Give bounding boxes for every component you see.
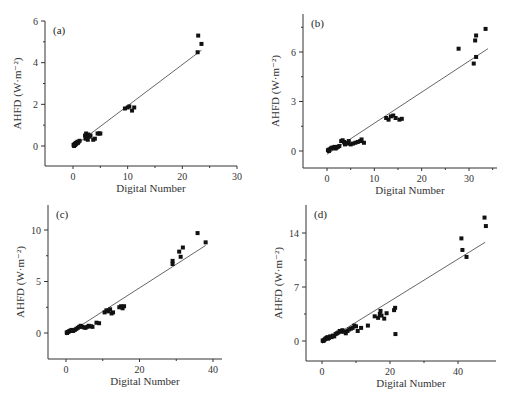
panel-label: (c)	[56, 208, 69, 221]
data-point	[204, 240, 208, 244]
panel-c: 051002040Digital NumberAHFD (W·m⁻²)(c)	[14, 205, 222, 387]
data-point	[177, 250, 181, 254]
data-point	[385, 311, 389, 315]
y-tick-label: 5	[36, 276, 41, 287]
x-tick-label: 10	[369, 173, 379, 184]
data-point	[465, 255, 469, 259]
regression-line	[327, 49, 488, 155]
x-tick-label: 0	[325, 173, 330, 184]
data-point	[484, 27, 488, 31]
data-point	[473, 38, 477, 42]
data-point	[98, 132, 102, 136]
data-point	[71, 329, 75, 333]
data-point	[337, 144, 341, 148]
regression-line	[73, 50, 201, 147]
x-tick-label: 40	[453, 366, 463, 377]
x-tick-label: 20	[135, 364, 145, 375]
panel-label: (a)	[53, 24, 66, 37]
data-point	[179, 255, 183, 259]
data-point	[88, 134, 92, 138]
y-tick-label: 6	[291, 47, 296, 58]
data-point	[132, 105, 136, 109]
data-point	[474, 55, 478, 59]
data-point	[196, 231, 200, 235]
data-point	[354, 324, 358, 328]
data-point	[393, 306, 397, 310]
data-point	[196, 50, 200, 54]
y-tick-label: 0	[294, 336, 299, 347]
y-axis-label: AHFD (W·m⁻²)	[269, 55, 282, 127]
data-point	[378, 309, 382, 313]
x-tick-label: 10	[123, 171, 133, 182]
data-point	[326, 337, 330, 341]
x-axis-label: Digital Number	[116, 182, 186, 194]
data-point	[484, 224, 488, 228]
x-axis-label: Digital Number	[375, 184, 445, 196]
data-point	[181, 246, 185, 250]
panel-d: 071402040Digital NumberAHFD (W·m⁻²)(d)	[272, 205, 496, 389]
y-tick-label: 10	[31, 225, 41, 236]
x-tick-label: 20	[417, 173, 427, 184]
data-point	[334, 147, 338, 151]
data-point	[393, 332, 397, 336]
x-tick-label: 30	[464, 173, 474, 184]
x-tick-label: 0	[71, 171, 76, 182]
x-axis-label: Digital Number	[110, 375, 180, 387]
data-point	[90, 325, 94, 329]
x-tick-label: 0	[64, 364, 69, 375]
data-point	[459, 236, 463, 240]
data-point	[362, 141, 366, 145]
panel-label: (d)	[314, 208, 327, 221]
y-axis-label: AHFD (W·m⁻²)	[272, 247, 285, 319]
data-point	[111, 310, 115, 314]
data-point	[127, 104, 131, 108]
data-point	[343, 142, 347, 146]
y-axis-label: AHFD (W·m⁻²)	[14, 246, 27, 318]
data-point	[97, 321, 101, 325]
data-point	[72, 144, 76, 148]
x-tick-label: 40	[208, 364, 218, 375]
data-point	[394, 116, 398, 120]
panel-label: (b)	[311, 17, 324, 30]
data-point	[84, 137, 88, 141]
data-point	[472, 62, 476, 66]
data-point	[76, 141, 80, 145]
data-point	[457, 47, 461, 51]
x-tick-label: 0	[320, 366, 325, 377]
y-tick-label: 6	[33, 16, 38, 27]
y-tick-label: 0	[36, 328, 41, 339]
x-tick-label: 30	[232, 171, 242, 182]
data-point	[382, 317, 386, 321]
data-point	[400, 117, 404, 121]
data-point	[196, 34, 200, 38]
y-tick-label: 2	[33, 99, 38, 110]
data-point	[321, 339, 325, 343]
data-point	[122, 304, 126, 308]
y-axis-label: AHFD (W·m⁻²)	[11, 57, 24, 129]
data-point	[483, 216, 487, 220]
y-tick-label: 0	[291, 146, 296, 157]
y-tick-label: 14	[289, 228, 299, 239]
regression-line	[66, 245, 206, 335]
y-tick-label: 4	[33, 57, 38, 68]
data-point	[359, 326, 363, 330]
y-tick-label: 0	[33, 141, 38, 152]
x-tick-label: 20	[177, 171, 187, 182]
panel-b: 0360102030Digital NumberAHFD (W·m⁻²)(b)	[269, 14, 497, 196]
x-axis-label: Digital Number	[376, 377, 446, 389]
data-point	[65, 331, 69, 335]
data-point	[93, 137, 97, 141]
figure-canvas: 02460102030Digital NumberAHFD (W·m⁻²)(a)…	[0, 0, 511, 402]
data-point	[199, 42, 203, 46]
y-tick-label: 3	[291, 96, 296, 107]
y-tick-label: 7	[294, 282, 299, 293]
x-tick-label: 20	[385, 366, 395, 377]
data-point	[327, 149, 331, 153]
data-point	[460, 248, 464, 252]
regression-line	[322, 242, 485, 343]
data-point	[366, 324, 370, 328]
panel-a: 02460102030Digital NumberAHFD (W·m⁻²)(a)	[11, 16, 242, 195]
data-point	[474, 34, 478, 38]
data-point	[171, 259, 175, 263]
